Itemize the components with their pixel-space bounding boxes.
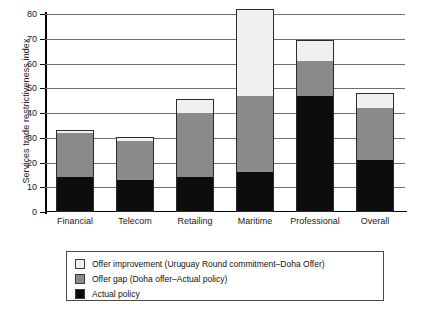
chart-legend: Offer improvement (Uruguay Round commitm… xyxy=(66,251,384,301)
bar-segment xyxy=(176,99,214,113)
stacked-bar-chart: Services trade restrictiveness index 010… xyxy=(0,0,426,311)
bar-segment xyxy=(296,96,334,212)
bar-series-group xyxy=(45,14,405,212)
bar-stack[interactable] xyxy=(236,9,274,212)
x-axis-label: Telecom xyxy=(105,216,165,226)
x-axis-label: Professional xyxy=(285,216,345,226)
legend-label: Offer gap (Doha offer–Actual policy) xyxy=(92,274,227,284)
y-tick-label: 40 xyxy=(27,109,37,118)
y-tick-label: 20 xyxy=(27,158,37,167)
legend-item: Offer gap (Doha offer–Actual policy) xyxy=(75,272,383,286)
bar-slot xyxy=(45,14,105,212)
legend-label: Actual policy xyxy=(92,289,140,299)
bar-stack[interactable] xyxy=(296,40,334,212)
x-axis-labels: FinancialTelecomRetailingMaritimeProfess… xyxy=(45,216,405,226)
bar-slot xyxy=(165,14,225,212)
plot-area: 01020304050607080 xyxy=(45,14,405,212)
bar-slot xyxy=(345,14,405,212)
bar-segment xyxy=(236,9,274,96)
legend-swatch xyxy=(75,274,85,284)
bar-segment xyxy=(356,160,394,212)
legend-item: Offer improvement (Uruguay Round commitm… xyxy=(75,257,383,271)
bar-slot xyxy=(285,14,345,212)
bar-segment xyxy=(236,96,274,173)
bar-slot xyxy=(105,14,165,212)
y-tick-mark xyxy=(40,212,45,213)
legend-item: Actual policy xyxy=(75,287,383,301)
bar-segment xyxy=(176,177,214,212)
bar-stack[interactable] xyxy=(56,130,94,212)
y-tick-label: 0 xyxy=(32,208,37,217)
bar-segment xyxy=(356,93,394,108)
y-tick-label: 70 xyxy=(27,34,37,43)
x-axis-label: Maritime xyxy=(225,216,285,226)
legend-swatch xyxy=(75,259,85,269)
bar-segment xyxy=(176,113,214,177)
y-tick-label: 80 xyxy=(27,10,37,19)
y-tick-label: 30 xyxy=(27,133,37,142)
bar-segment xyxy=(116,141,154,179)
bar-stack[interactable] xyxy=(176,99,214,212)
bar-slot xyxy=(225,14,285,212)
y-tick-label: 60 xyxy=(27,59,37,68)
bar-segment xyxy=(296,61,334,96)
y-tick-label: 10 xyxy=(27,183,37,192)
bar-segment xyxy=(356,108,394,160)
bar-segment xyxy=(56,133,94,178)
bar-segment xyxy=(56,177,94,212)
x-axis-label: Overall xyxy=(345,216,405,226)
bar-segment xyxy=(116,180,154,212)
legend-swatch xyxy=(75,289,85,299)
legend-label: Offer improvement (Uruguay Round commitm… xyxy=(92,259,325,269)
bar-stack[interactable] xyxy=(116,137,154,212)
bar-stack[interactable] xyxy=(356,93,394,212)
bar-segment xyxy=(236,172,274,212)
x-axis-label: Financial xyxy=(45,216,105,226)
y-tick-label: 50 xyxy=(27,84,37,93)
x-axis-label: Retailing xyxy=(165,216,225,226)
bar-segment xyxy=(296,40,334,61)
